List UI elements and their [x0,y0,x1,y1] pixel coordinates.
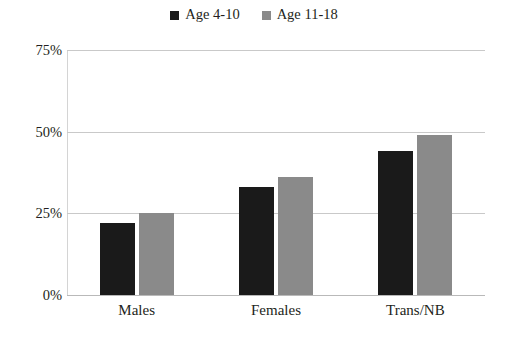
bar [100,223,135,295]
legend-item-age-4-10: Age 4-10 [170,7,239,22]
x-axis-tick-labels: MalesFemalesTrans/NB [67,303,485,327]
x-axis-tick-label: Males [118,303,155,318]
y-axis-tick-label: 0% [4,288,62,303]
legend-swatch-icon [170,11,179,20]
bar-series-group [67,50,485,295]
legend-item-age-11-18: Age 11-18 [262,7,338,22]
chart-legend: Age 4-10 Age 11-18 [0,4,508,24]
bar [378,151,413,295]
plot-area [67,50,485,295]
bar [239,187,274,295]
bar [417,135,452,295]
y-axis-tick-labels: 0%25%50%75% [0,50,62,295]
gridline [67,295,485,296]
x-axis-tick-label: Trans/NB [386,303,445,318]
bar [278,177,313,295]
y-axis-tick-label: 25% [4,206,62,221]
y-axis-tick-label: 75% [4,43,62,58]
legend-swatch-icon [262,11,271,20]
x-axis-tick-label: Females [251,303,301,318]
bar-chart: Age 4-10 Age 11-18 0%25%50%75% MalesFema… [0,0,508,344]
legend-label: Age 11-18 [277,7,338,22]
legend-label: Age 4-10 [185,7,239,22]
y-axis-tick-label: 50% [4,124,62,139]
bar [139,213,174,295]
